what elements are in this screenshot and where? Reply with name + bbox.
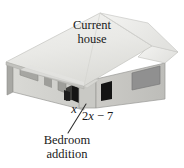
expr-constant: − 7 [94,109,114,123]
label-bedroom-addition-line1: Bedroom [44,133,91,147]
label-current-house-line2: house [0,33,184,47]
label-bedroom-addition-line2: addition [0,148,134,162]
house-diagram-figure: Current house Bedroom addition x 2x − 7 [0,0,184,168]
label-bedroom-addition: Bedroom addition [0,134,134,161]
label-dimension-expression: 2x − 7 [82,110,142,124]
addition-window-small [101,81,112,101]
label-dimension-x: x [66,103,82,117]
label-current-house-line1: Current [73,18,111,32]
label-current-house: Current house [0,19,184,46]
